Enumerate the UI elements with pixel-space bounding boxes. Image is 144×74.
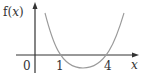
tick-label-4: 4 xyxy=(104,59,112,73)
x-axis-arrow-icon xyxy=(132,53,139,58)
x-axis-label: x xyxy=(131,58,138,72)
tick-label-0: 0 xyxy=(23,59,31,73)
y-axis-arrow-icon xyxy=(33,2,38,9)
function-graph: f(x) 0 1 4 x xyxy=(0,0,144,74)
tick-label-1: 1 xyxy=(56,59,64,73)
y-axis-label: f(x) xyxy=(3,5,24,19)
